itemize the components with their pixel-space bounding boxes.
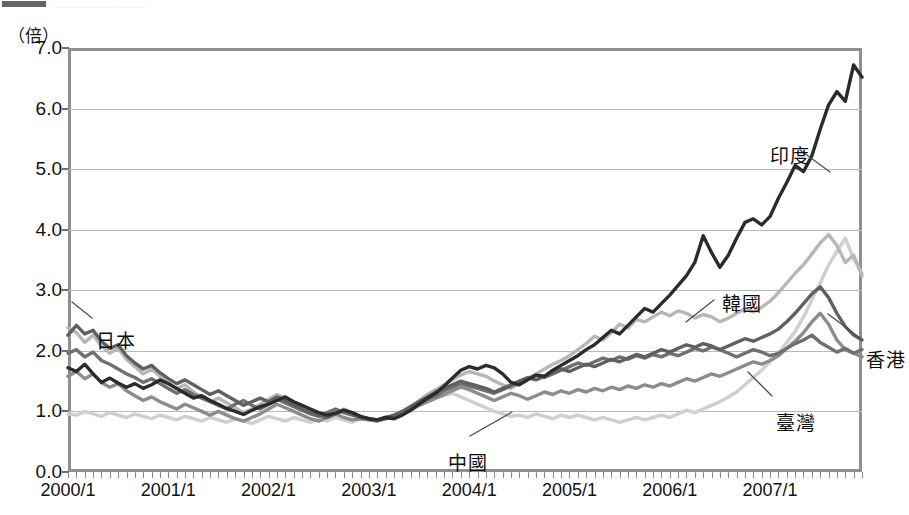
series-line-hong-kong bbox=[68, 335, 862, 420]
series-label-india: 印度 bbox=[770, 141, 810, 168]
series-label-china: 中國 bbox=[448, 448, 488, 475]
leader-line-taiwan bbox=[748, 372, 772, 396]
series-label-taiwan: 臺灣 bbox=[776, 408, 816, 435]
line-chart: （倍） 0.01.02.03.04.05.06.07.0 2000/12001/… bbox=[0, 0, 909, 515]
series-label-hong-kong: 香港 bbox=[866, 345, 906, 372]
series-label-korea: 韓國 bbox=[722, 289, 762, 316]
leader-line-china bbox=[470, 412, 512, 436]
leader-line-korea bbox=[686, 300, 714, 322]
leader-line-japan bbox=[72, 302, 92, 318]
series-layer bbox=[0, 0, 909, 515]
series-label-japan: 日本 bbox=[96, 326, 136, 353]
